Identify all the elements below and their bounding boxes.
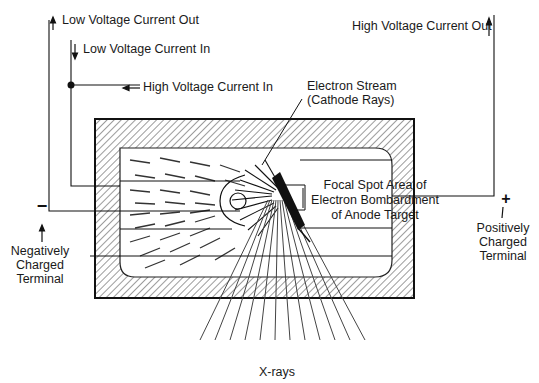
label-cathode-rays: (Cathode Rays) — [307, 93, 395, 107]
label-focal-spot-3: of Anode Target — [331, 208, 419, 222]
label-low-voltage-out: Low Voltage Current Out — [62, 13, 199, 27]
positive-terminal-symbol: + — [501, 190, 510, 207]
junction-dot — [68, 82, 75, 89]
label-low-voltage-in: Low Voltage Current In — [83, 42, 210, 56]
label-high-voltage-in: High Voltage Current In — [143, 80, 273, 94]
label-xrays: X-rays — [259, 365, 295, 379]
negative-terminal-symbol: − — [37, 196, 48, 216]
label-high-voltage-out: High Voltage Current Out — [352, 19, 492, 33]
label-focal-spot-1: Focal Spot Area of — [324, 178, 427, 192]
label-focal-spot-2: Electron Bombardment — [311, 193, 439, 207]
label-negative-1: Negatively — [11, 244, 70, 258]
label-negative-3: Terminal — [16, 272, 63, 286]
label-positive-1: Positively — [477, 221, 531, 235]
label-negative-2: Charged — [16, 258, 64, 272]
label-positive-2: Charged — [479, 235, 527, 249]
label-electron-stream: Electron Stream — [307, 79, 397, 93]
label-positive-3: Terminal — [479, 249, 526, 263]
xray-tube-diagram: Low Voltage Current Out Low Voltage Curr… — [0, 0, 539, 383]
